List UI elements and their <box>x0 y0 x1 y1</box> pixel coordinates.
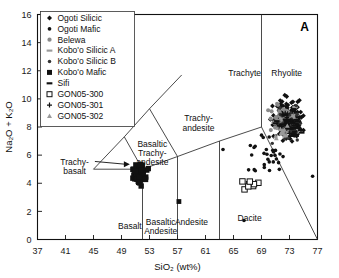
data-point <box>261 136 265 140</box>
data-point <box>272 150 276 154</box>
legend-label: GON05-302 <box>58 111 104 121</box>
data-point <box>269 117 273 121</box>
data-point <box>298 110 303 115</box>
data-point <box>138 162 143 167</box>
data-point <box>281 155 285 159</box>
data-point <box>275 102 279 106</box>
data-point <box>292 125 298 127</box>
data-point <box>247 179 252 184</box>
y-tick-label: 8 <box>26 122 31 132</box>
data-point <box>273 154 277 158</box>
data-point <box>293 135 299 137</box>
data-point <box>252 146 256 150</box>
generated-plot-content: 37414549535761656973770246810121416SiO₂ … <box>3 10 323 272</box>
field-label-dacite: Dacite <box>238 213 262 223</box>
data-point <box>250 153 254 157</box>
boundary-dacite-rhyolite <box>262 127 318 240</box>
legend-label: Ogoti Silicic <box>58 13 103 23</box>
y-tick-label: 4 <box>26 178 31 188</box>
data-point <box>268 169 272 173</box>
data-point-outlier <box>242 219 246 223</box>
data-point <box>298 129 304 131</box>
data-point <box>269 154 273 158</box>
data-point-outlier <box>221 148 225 152</box>
boundary-trachybasalt-upper <box>94 137 125 169</box>
panel-label: A <box>300 20 309 34</box>
data-point <box>270 104 275 109</box>
data-point <box>296 116 302 118</box>
legend-marker-circle-small-filled <box>48 60 52 64</box>
x-tick-label: 69 <box>256 246 266 256</box>
boundary-trachy-andesite-trachyte <box>178 141 220 156</box>
data-point <box>281 107 285 111</box>
data-point <box>271 142 274 145</box>
data-point <box>296 120 302 122</box>
legend-label: GON05-300 <box>58 89 104 99</box>
data-point <box>277 161 281 165</box>
field-label-andesite: Andesite <box>175 217 208 227</box>
data-point <box>265 148 269 152</box>
data-point <box>291 133 297 135</box>
data-point <box>137 180 142 185</box>
data-point <box>240 179 245 184</box>
x-tick-label: 65 <box>228 246 238 256</box>
boundary-tephriphonolite-line <box>150 75 182 109</box>
y-tick-label: 2 <box>26 207 31 217</box>
tas-plot-canvas: 37414549535761656973770246810121416SiO₂ … <box>0 0 339 278</box>
trachybasalt-leader-arrow <box>124 161 130 167</box>
legend-marker-bar-filled <box>47 82 53 84</box>
data-point <box>275 157 279 161</box>
x-tick-label: 73 <box>284 246 294 256</box>
x-axis-title: SiO₂ (wt%) <box>154 261 200 272</box>
x-tick-label: 45 <box>88 246 98 256</box>
data-point <box>292 131 298 133</box>
data-point <box>296 138 299 141</box>
legend-marker-circle-small-gray <box>47 38 51 42</box>
data-point <box>299 132 305 134</box>
data-point <box>284 121 290 123</box>
legend-marker-square-filled <box>47 70 52 75</box>
field-label-basalt: Basalt <box>118 221 142 231</box>
data-point <box>263 166 267 170</box>
data-point <box>266 108 270 112</box>
data-point <box>143 177 148 182</box>
legend-label: Kobo'o Silicic B <box>58 56 117 66</box>
y-tick-label: 16 <box>21 10 31 20</box>
data-point <box>146 166 151 171</box>
data-point <box>269 128 273 132</box>
legend-label: GON05-301 <box>58 100 104 110</box>
legend-label: Ogoti Mafic <box>58 24 102 34</box>
boundary-trachyte-lower <box>220 127 262 141</box>
legend-label: Sifi <box>58 78 70 88</box>
y-tick-label: 6 <box>26 150 31 160</box>
data-point <box>247 168 251 172</box>
field-label-trachy--basalt: basalt <box>63 166 86 176</box>
data-point <box>265 152 269 156</box>
data-point <box>267 135 271 139</box>
data-point-outlier <box>177 199 182 204</box>
field-label-trachyte: Trachyte <box>228 68 261 78</box>
x-tick-label: 53 <box>144 246 154 256</box>
data-point <box>274 120 280 122</box>
x-tick-label: 41 <box>60 246 70 256</box>
data-point <box>133 169 138 174</box>
legend-label: Kobo'o Mafic <box>58 67 108 77</box>
legend-marker-square-open <box>47 92 52 97</box>
data-point <box>295 104 298 107</box>
legend-label: Belewa <box>58 35 86 45</box>
data-point <box>136 174 141 179</box>
y-tick-label: 14 <box>21 38 31 48</box>
field-label-rhyolite: Rhyolite <box>271 68 302 78</box>
legend-marker-circle-filled <box>48 27 52 31</box>
data-point-outlier <box>311 174 315 178</box>
legend-label: Kobo'o Silicic A <box>58 45 116 55</box>
field-label-trachy--andesite: andesite <box>182 123 214 133</box>
x-tick-label: 49 <box>116 246 126 256</box>
y-axis-title: Na₂O + K₂O <box>3 101 14 152</box>
x-tick-label: 37 <box>32 246 42 256</box>
field-label-basaltic-andesite: Andesite <box>144 226 177 236</box>
data-point <box>278 106 281 109</box>
y-tick-label: 10 <box>21 94 31 104</box>
y-tick-label: 12 <box>21 66 31 76</box>
data-point <box>278 152 282 156</box>
